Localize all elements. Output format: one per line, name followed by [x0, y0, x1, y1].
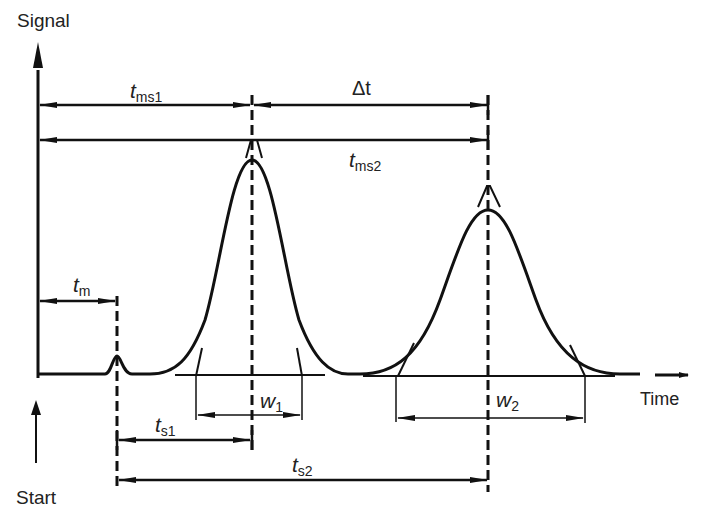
start-arrow — [31, 400, 41, 463]
y-axis — [33, 42, 43, 378]
up-arrow-icon — [31, 400, 41, 415]
y-axis-label: Signal — [17, 10, 70, 31]
peak2-tangents — [398, 186, 585, 376]
ts2-label: ts2 — [292, 453, 313, 479]
w2-label: w2 — [496, 388, 519, 414]
tms2-label: tms2 — [349, 148, 382, 174]
tms1-label: tms1 — [130, 79, 163, 105]
chromatogram-curve — [38, 160, 640, 374]
y-axis-arrow-icon — [33, 42, 43, 68]
tm-label: tm — [73, 273, 91, 299]
x-axis-label: Time — [640, 389, 679, 409]
ts1-label: ts1 — [155, 413, 176, 439]
delta-t-label: Δt — [352, 77, 371, 99]
chromatogram-diagram: Signal Time Start tms1 Δt tms2 tm w1 w2 … — [0, 0, 706, 519]
start-label: Start — [16, 487, 57, 508]
w1-label: w1 — [260, 389, 283, 415]
width-extents — [196, 376, 585, 423]
